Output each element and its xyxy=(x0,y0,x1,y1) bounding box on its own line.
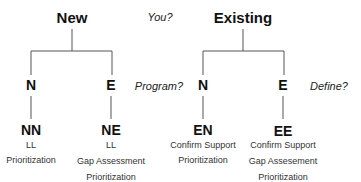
leaf-en-code: EN xyxy=(193,122,212,138)
question-you: You? xyxy=(147,11,172,23)
leaf-ne-item: LL xyxy=(106,141,116,150)
leaf-ee-item: Prioritization xyxy=(258,173,308,182)
question-define: Define? xyxy=(310,80,348,92)
leaf-ee-code: EE xyxy=(274,123,293,139)
existing-branch-n: N xyxy=(198,77,208,93)
leaf-en-item: Confirm Support xyxy=(170,141,236,150)
root-new: New xyxy=(57,9,88,26)
question-program: Program? xyxy=(135,80,183,92)
new-branch-e: E xyxy=(106,77,115,93)
leaf-nn-item: Prioritization xyxy=(6,156,56,165)
leaf-ne-code: NE xyxy=(101,122,120,138)
root-existing: Existing xyxy=(214,9,272,26)
new-branch-n: N xyxy=(26,77,36,93)
leaf-en-item: Prioritization xyxy=(178,156,228,165)
existing-branch-e: E xyxy=(278,77,287,93)
leaf-nn-item: LL xyxy=(26,141,36,150)
leaf-ne-item: Prioritization xyxy=(86,173,136,182)
leaf-ee-item: Gap Assesement xyxy=(249,157,318,166)
leaf-ee-item: Confirm Support xyxy=(250,141,316,150)
leaf-nn-code: NN xyxy=(21,122,41,138)
leaf-ne-item: Gap Assessment xyxy=(77,157,145,166)
